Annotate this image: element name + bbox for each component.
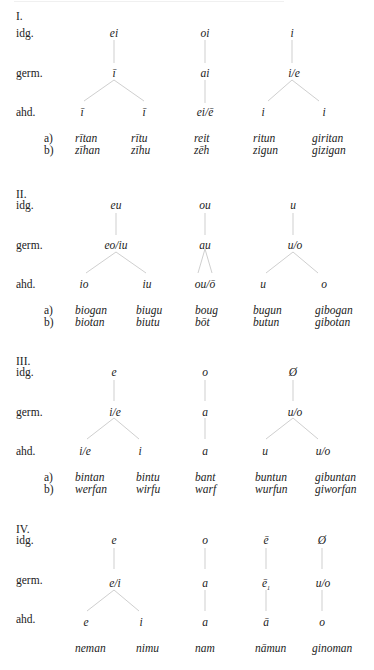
germ-form: u/o [288,239,303,252]
germ-form-subscript: 1 [267,585,270,591]
example-b: zēh [194,144,209,157]
idg-form: e [111,366,116,379]
ahd-form: ī [80,106,83,119]
idg-form: o [202,534,208,547]
row-label-idg: idg. [16,199,34,212]
example: ginoman [312,642,352,655]
ahd-form: ou/ō [195,278,215,291]
row-label-idg: idg. [16,366,34,379]
example-b: biotan [75,316,104,329]
example: neman [75,642,106,655]
idg-form: ei [110,27,118,40]
row-label-ahd: ahd. [16,106,35,119]
ahd-form: o [321,278,327,291]
ahd-form: u/o [316,445,331,458]
example-b: wurfun [255,483,288,496]
row-label-germ: germ. [16,574,43,587]
top-rule [14,1,284,2]
row-label-germ: germ. [16,239,43,252]
germ-form: au [199,239,211,252]
germ-form: i/e [288,67,300,80]
ahd-form: i [261,106,264,119]
ahd-form: a [202,445,208,458]
ahd-form: e [83,616,88,629]
ahd-form: u [262,445,268,458]
germ-form: ē1 [262,577,270,595]
example-b: bōt [195,316,210,329]
idg-form: o [202,366,208,379]
ahd-form: i/e [79,445,91,458]
germ-form: u/o [288,406,303,419]
ahd-form: o [319,616,325,629]
row-label-germ: germ. [16,67,43,80]
example-b: butun [253,316,279,329]
example-b: werfan [75,483,107,496]
ahd-form: u [260,278,266,291]
example-b: gibotan [315,316,350,329]
idg-form: ē [263,534,268,547]
ahd-form: i [138,445,141,458]
row-label-idg: idg. [16,27,34,40]
example-b: biutu [136,316,160,329]
row-label-germ: germ. [16,406,43,419]
example-b: gizigan [312,144,346,157]
row-label-idg: idg. [16,534,34,547]
example: nimu [136,642,159,655]
germ-form: eo/iu [105,239,128,252]
idg-form: i [290,27,293,40]
ahd-form: ī [142,106,145,119]
germ-form: a [202,406,208,419]
derivation-lines [0,0,374,670]
germ-form: ī [112,67,115,80]
example-b: wirfu [136,483,160,496]
example: nam [195,642,215,655]
idg-form: e [111,534,116,547]
germ-form: a [202,577,208,590]
section-numeral: I. [16,10,23,23]
ahd-form: ā [263,616,269,629]
germ-form: ai [201,67,210,80]
example-b: zīhan [75,144,100,157]
row-label-ahd: ahd. [16,613,35,626]
row-label-b: b) [44,483,54,496]
example-b: zigun [253,144,278,157]
row-label-ahd: ahd. [16,445,35,458]
germ-form: u/o [316,577,331,590]
ahd-form: ei/ē [197,106,214,119]
ahd-form: iu [143,278,152,291]
ahd-form: a [202,616,208,629]
row-label-ahd: ahd. [16,278,35,291]
example-b: warf [195,483,216,496]
idg-form: Ø [318,534,326,547]
example-b: giworfan [315,483,357,496]
ahd-form: i [322,106,325,119]
row-label-b: b) [44,144,54,157]
germ-form: i/e [109,406,121,419]
example: nāmun [255,642,286,655]
idg-form: eu [111,199,122,212]
ahd-form: io [80,278,89,291]
idg-form: oi [201,27,210,40]
idg-form: u [290,199,296,212]
ahd-form: i [139,616,142,629]
germ-form: e/i [109,577,121,590]
idg-form: ou [199,199,211,212]
row-label-b: b) [44,316,54,329]
example-b: zīhu [131,144,150,157]
idg-form: Ø [289,366,297,379]
